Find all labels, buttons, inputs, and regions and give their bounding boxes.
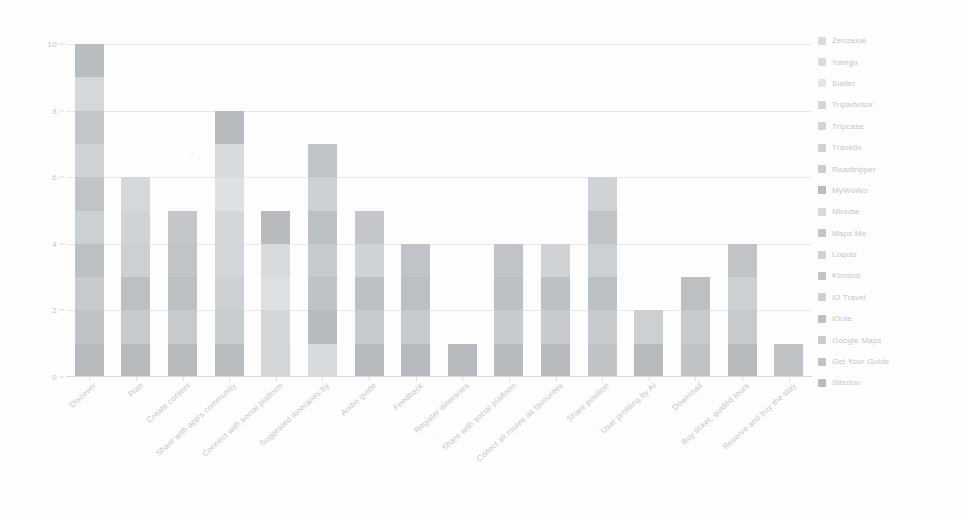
bar-stack[interactable]	[494, 244, 523, 377]
x-axis-tick-mark	[322, 377, 323, 381]
bar-segment	[494, 310, 523, 343]
bar-segment	[541, 277, 570, 310]
y-axis-tick-label: 2	[52, 306, 57, 315]
bar-segment	[588, 310, 617, 343]
bar-stack[interactable]	[448, 344, 477, 377]
legend-item[interactable]: iO Travel	[818, 287, 958, 308]
y-axis-tick-mark	[59, 177, 64, 178]
legend-item-label: Maps Me	[832, 229, 866, 238]
legend-swatch-icon	[818, 358, 826, 366]
bar-segment	[261, 211, 290, 244]
legend-item-label: Komoot	[832, 271, 861, 280]
bar-segment	[634, 310, 663, 343]
legend-item[interactable]: iOute	[818, 308, 958, 329]
legend-item[interactable]: Maps Me	[818, 223, 958, 244]
legend-item[interactable]: MyWoWo	[818, 180, 958, 201]
bar-segment	[588, 177, 617, 210]
bar-segment	[121, 177, 150, 210]
x-axis-tick-label: Create content	[144, 381, 191, 425]
legend-swatch-icon	[818, 272, 826, 280]
legend-item[interactable]: Zenzeloe	[818, 30, 958, 51]
bar-segment	[308, 177, 337, 210]
x-axis-tick-label: Discover	[68, 381, 98, 410]
x-axis-tick-label: Feedback	[391, 381, 424, 412]
bar-segment	[681, 344, 710, 377]
legend-item-label: Get Your Guide	[832, 357, 890, 366]
bar-segment	[494, 344, 523, 377]
x-axis-tick-label: Audio guide	[339, 381, 378, 417]
bar-stack[interactable]	[75, 44, 104, 377]
legend-item[interactable]: Get Your Guide	[818, 351, 958, 372]
bar-stack[interactable]	[588, 177, 617, 377]
x-axis-tick-mark	[229, 377, 230, 381]
bar-stack[interactable]	[774, 344, 803, 377]
legend-swatch-icon	[818, 37, 826, 45]
bar-stack[interactable]	[401, 244, 430, 377]
bar-segment	[355, 277, 384, 310]
legend-item-label: Sitedoo	[832, 378, 861, 387]
bar-segment	[728, 344, 757, 377]
legend-item[interactable]: Tripadvisor	[818, 94, 958, 115]
legend-swatch-icon	[818, 315, 826, 323]
bar-segment	[355, 344, 384, 377]
legend-swatch-icon	[818, 58, 826, 66]
y-axis-tick-label: 8	[52, 106, 57, 115]
bar-stack[interactable]	[541, 244, 570, 377]
y-axis-tick-mark	[59, 377, 64, 378]
x-axis-tick-label: Plan	[126, 381, 145, 399]
legend-item[interactable]: Google Maps	[818, 329, 958, 350]
legend-item[interactable]: Loquis	[818, 244, 958, 265]
bar-stack[interactable]	[634, 310, 663, 377]
bar-segment	[215, 177, 244, 210]
legend-item-label: Sialler	[832, 79, 856, 88]
bar-segment	[588, 211, 617, 244]
legend-item-label: iOute	[832, 314, 852, 323]
legend-swatch-icon	[818, 208, 826, 216]
legend-item[interactable]: Sialler	[818, 73, 958, 94]
bar-segment	[121, 277, 150, 310]
bar-segment	[215, 244, 244, 277]
legend-swatch-icon	[818, 186, 826, 194]
bar-segment	[168, 211, 197, 244]
legend-item-label: MyWoWo	[832, 186, 868, 195]
bar-stack[interactable]	[681, 277, 710, 377]
legend-item-label: Tripcase	[832, 122, 864, 131]
bar-segment	[308, 344, 337, 377]
x-axis-tick-label: Download	[671, 381, 705, 413]
x-axis-tick-mark	[369, 377, 370, 381]
bar-stack[interactable]	[355, 211, 384, 378]
bar-stack[interactable]	[261, 211, 290, 378]
bar-stack[interactable]	[308, 144, 337, 377]
legend-item[interactable]: Sitedoo	[818, 372, 958, 393]
legend-item-label: Zenzeloe	[832, 36, 867, 45]
legend-item[interactable]: Travello	[818, 137, 958, 158]
bar-segment	[168, 277, 197, 310]
legend-item[interactable]: Yamgu	[818, 51, 958, 72]
bar-segment	[215, 344, 244, 377]
legend-item[interactable]: Komoot	[818, 265, 958, 286]
bar-segment	[215, 211, 244, 244]
bar-stack[interactable]	[728, 244, 757, 377]
bar-segment	[261, 310, 290, 343]
bar-segment	[681, 310, 710, 343]
bar-segment	[261, 277, 290, 310]
bar-segment	[121, 244, 150, 277]
legend-swatch-icon	[818, 79, 826, 87]
bar-segment	[215, 310, 244, 343]
x-axis-labels: DiscoverPlanCreate contentShare with app…	[66, 381, 812, 506]
legend-item-label: Travello	[832, 143, 862, 152]
legend-item[interactable]: Tripcase	[818, 116, 958, 137]
bar-stack[interactable]	[215, 111, 244, 377]
legend-swatch-icon	[818, 336, 826, 344]
legend-swatch-icon	[818, 122, 826, 130]
legend-swatch-icon	[818, 229, 826, 237]
bar-segment	[75, 144, 104, 177]
bar-stack[interactable]	[168, 211, 197, 378]
legend-item[interactable]: Minube	[818, 201, 958, 222]
bar-stack[interactable]	[121, 177, 150, 377]
x-axis-tick-mark	[649, 377, 650, 381]
bar-segment	[355, 310, 384, 343]
bar-segment	[355, 244, 384, 277]
x-axis-tick-label: Collect all routes as favourites	[474, 381, 564, 463]
legend-item[interactable]: Roadtripper	[818, 158, 958, 179]
